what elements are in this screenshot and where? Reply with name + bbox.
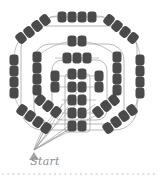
- seat-node: [136, 77, 145, 88]
- seat-node: [68, 121, 77, 132]
- seat-node: [136, 66, 145, 77]
- seat-node: [136, 88, 145, 99]
- seat-node: [51, 71, 60, 82]
- figure-canvas: Start: [0, 0, 159, 180]
- seat-group-outer-left-column: [10, 55, 19, 99]
- bottom-dot: [137, 173, 139, 175]
- start-label: Start: [0, 155, 90, 168]
- bottom-dot: [59, 173, 61, 175]
- seat-node: [113, 74, 122, 85]
- seat-node: [68, 82, 77, 93]
- seat-group-ring2-right-column: [113, 52, 122, 96]
- seat-node: [78, 95, 87, 106]
- bottom-dot: [12, 173, 14, 175]
- seat-group-ring2-lower-left-diagonal: [33, 93, 63, 119]
- bottom-dot: [111, 173, 113, 175]
- seat-node: [33, 63, 42, 74]
- seat-node: [33, 52, 42, 63]
- seat-node: [33, 85, 42, 96]
- bottom-dot: [142, 173, 144, 175]
- bottom-dot: [101, 173, 103, 175]
- bottom-dot: [23, 173, 25, 175]
- seat-group-ring2-top-pair: [68, 36, 87, 47]
- seat-node: [78, 36, 87, 47]
- bottom-dot: [70, 173, 72, 175]
- seat-node: [136, 55, 145, 66]
- seat-node: [10, 66, 19, 77]
- seat-group-ring2-lower-right-diagonal: [91, 93, 121, 119]
- bottom-dot: [54, 173, 56, 175]
- seat-group-ring3-top-row: [63, 53, 92, 64]
- seat-node: [78, 69, 87, 80]
- seat-node: [113, 52, 122, 63]
- seat-node: [58, 12, 67, 23]
- seat-node: [51, 82, 60, 93]
- bottom-dot: [33, 173, 35, 175]
- seat-node: [68, 36, 77, 47]
- seat-node: [73, 53, 82, 64]
- bottom-dot: [96, 173, 98, 175]
- bottom-dot: [49, 173, 51, 175]
- seat-node: [113, 63, 122, 74]
- seat-node: [95, 82, 104, 93]
- bottom-dot: [127, 173, 129, 175]
- seat-node: [10, 55, 19, 66]
- bottom-dot: [122, 173, 124, 175]
- seat-group-ring3-right-column: [95, 71, 104, 93]
- bottom-dot-row: [2, 173, 155, 175]
- seat-node: [88, 12, 97, 23]
- bottom-dot: [90, 173, 92, 175]
- seat-node: [68, 12, 77, 23]
- seat-group-outer-upper-left-diagonal: [14, 13, 52, 45]
- seat-node: [68, 69, 77, 80]
- seat-node: [113, 85, 122, 96]
- bottom-dot: [64, 173, 66, 175]
- seating-diagram: [0, 0, 159, 180]
- bottom-dot: [7, 173, 9, 175]
- bottom-dot: [116, 173, 118, 175]
- bottom-dot: [18, 173, 20, 175]
- bottom-dot: [148, 173, 150, 175]
- bottom-dot: [38, 173, 40, 175]
- seat-node: [95, 71, 104, 82]
- seat-node: [68, 95, 77, 106]
- bottom-dot: [44, 173, 46, 175]
- seat-node: [33, 74, 42, 85]
- seat-node: [10, 77, 19, 88]
- bottom-dot: [80, 173, 82, 175]
- bottom-dot: [85, 173, 87, 175]
- bottom-dot: [28, 173, 30, 175]
- bottom-dot: [132, 173, 134, 175]
- seat-group-outer-upper-right-diagonal: [102, 13, 140, 45]
- seat-node: [10, 88, 19, 99]
- bottom-dot: [75, 173, 77, 175]
- seat-node: [78, 108, 87, 119]
- bottom-dot: [153, 173, 155, 175]
- seat-node: [68, 108, 77, 119]
- seat-node: [78, 12, 87, 23]
- bottom-dot: [2, 173, 4, 175]
- seat-node: [78, 82, 87, 93]
- seat-node: [83, 53, 92, 64]
- seat-node: [63, 53, 72, 64]
- seat-node: [78, 121, 87, 132]
- bottom-dot: [106, 173, 108, 175]
